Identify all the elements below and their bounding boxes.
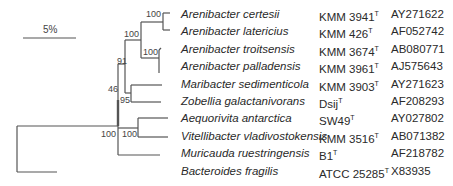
- accession-number: AF208293: [391, 93, 444, 109]
- strain-id: KMM 3903T: [319, 76, 379, 92]
- accession-number: AB080771: [391, 41, 445, 57]
- accession-number: AJ575643: [391, 58, 443, 74]
- species-name: Maribacter sedimenticola: [181, 76, 309, 92]
- species-name: Bacteroides fragilis: [181, 163, 278, 179]
- accession-number: X83935: [391, 163, 431, 179]
- scale-bar-label: 5%: [43, 24, 57, 35]
- bootstrap-value: 100: [124, 29, 139, 39]
- bootstrap-value: 95: [120, 95, 130, 105]
- species-name: Arenibacter palladensis: [181, 58, 301, 74]
- strain-id: DsijT: [319, 93, 342, 109]
- strain-id: ATCC 25285T: [319, 163, 389, 179]
- accession-number: AB071382: [391, 128, 445, 144]
- strain-id: KMM 426T: [319, 23, 373, 39]
- strain-id: SW49T: [319, 110, 355, 126]
- strain-id: KMM 3674T: [319, 41, 379, 57]
- species-name: Aequorivita antarctica: [181, 110, 292, 126]
- accession-number: AY027802: [391, 110, 444, 126]
- bootstrap-value: 91: [117, 56, 127, 66]
- strain-id: KMM 3961T: [319, 58, 379, 74]
- species-name: Vitellibacter vladivostokensis: [181, 128, 327, 144]
- species-name: Arenibacter certesii: [181, 6, 279, 22]
- bootstrap-value: 100: [146, 9, 161, 19]
- bootstrap-value: 100: [143, 47, 158, 57]
- species-name: Arenibacter troitsensis: [181, 41, 295, 57]
- strain-id: B1T: [319, 145, 337, 161]
- accession-number: AF052742: [391, 23, 444, 39]
- species-name: Zobellia galactanivorans: [181, 93, 305, 109]
- bootstrap-value: 100: [101, 129, 116, 139]
- strain-id: KMM 3516T: [319, 128, 379, 144]
- bootstrap-value: 100: [122, 129, 137, 139]
- accession-number: AY271622: [391, 6, 444, 22]
- accession-number: AY271623: [391, 76, 444, 92]
- bootstrap-value: 46: [108, 84, 118, 94]
- species-name: Muricauda ruestringensis: [181, 145, 309, 161]
- strain-id: KMM 3941T: [319, 6, 379, 22]
- species-name: Arenibacter latericius: [181, 23, 288, 39]
- accession-number: AF218782: [391, 145, 444, 161]
